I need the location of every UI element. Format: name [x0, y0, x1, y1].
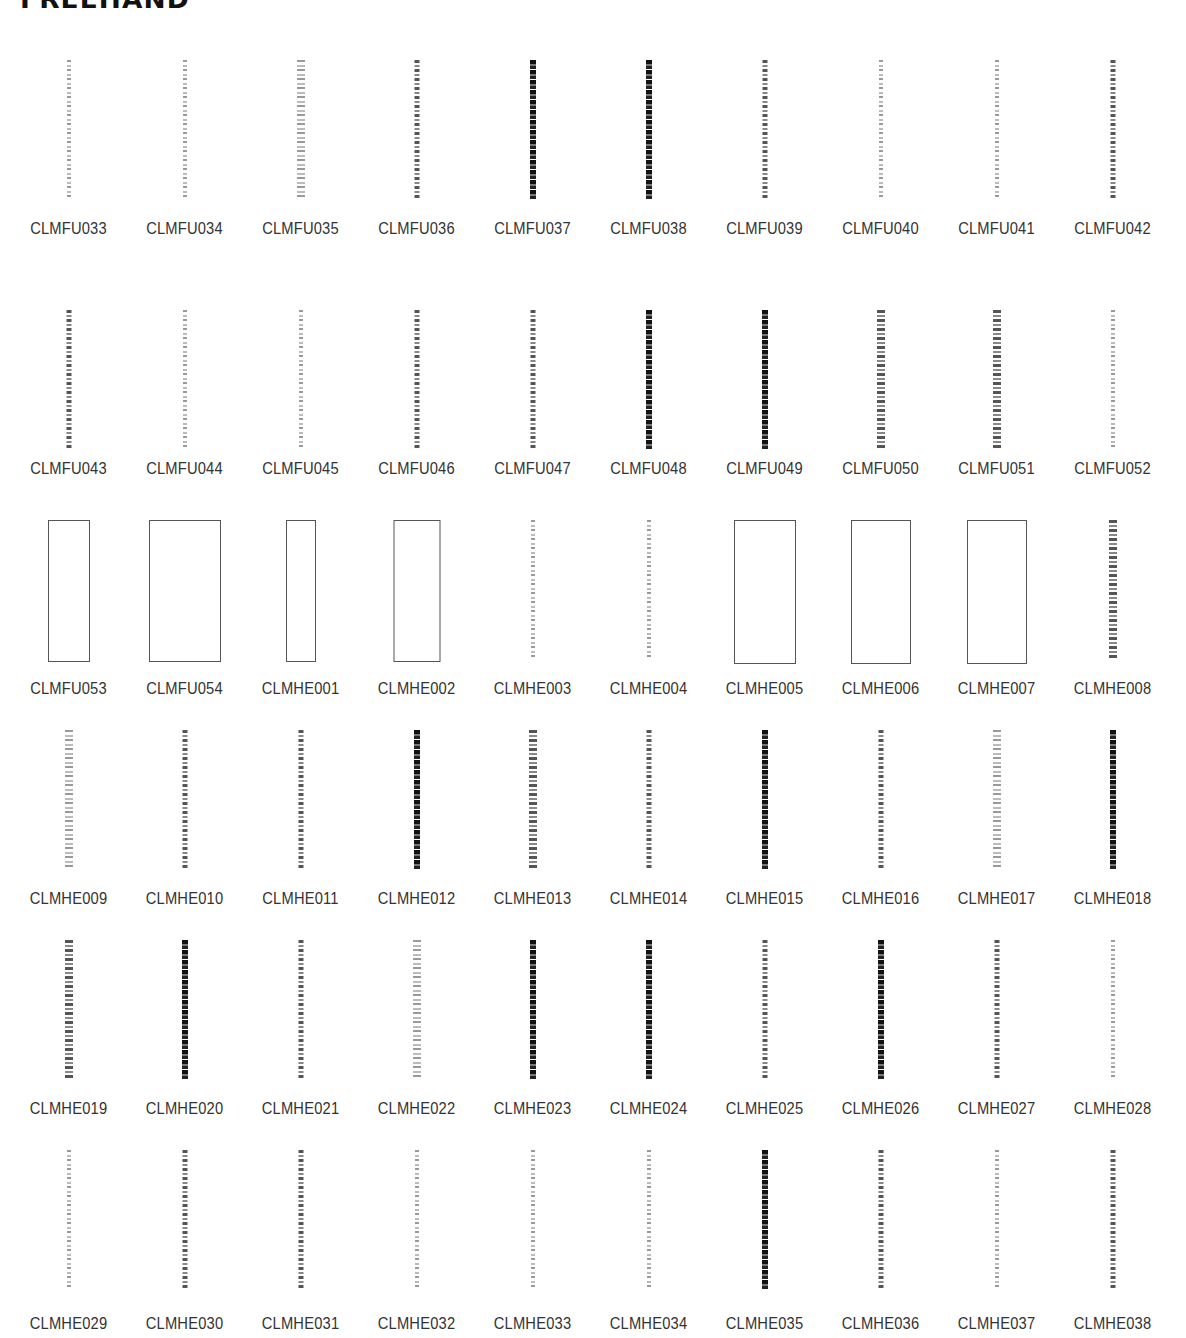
catalog-item[interactable]: CLMFU041: [938, 40, 1055, 250]
border-illustration-icon: [393, 520, 440, 662]
catalog-item[interactable]: CLMHE030: [126, 1130, 243, 1338]
catalog-item[interactable]: CLMHE035: [706, 1130, 823, 1338]
catalog-item[interactable]: CLMHE023: [474, 920, 591, 1130]
catalog-item[interactable]: CLMHE015: [706, 710, 823, 920]
catalog-row: CLMFU043CLMFU044CLMFU045CLMFU046CLMFU047…: [10, 290, 1180, 500]
catalog-item[interactable]: CLMHE013: [474, 710, 591, 920]
border-strip-icon: [1109, 520, 1117, 660]
catalog-item[interactable]: CLMFU047: [474, 290, 591, 500]
item-code-label: CLMHE001: [247, 680, 355, 698]
item-code-label: CLMFU047: [479, 460, 587, 478]
catalog-item[interactable]: CLMFU046: [358, 290, 475, 500]
border-strip-icon: [531, 1150, 535, 1290]
catalog-item[interactable]: CLMHE037: [938, 1130, 1055, 1338]
item-code-label: CLMFU045: [247, 460, 355, 478]
item-code-label: CLMHE030: [131, 1315, 239, 1333]
catalog-item[interactable]: CLMHE014: [590, 710, 707, 920]
border-strip-icon: [1110, 1150, 1115, 1290]
catalog-item[interactable]: CLMFU045: [242, 290, 359, 500]
catalog-item[interactable]: CLMHE003: [474, 500, 591, 710]
catalog-item[interactable]: CLMHE038: [1054, 1130, 1171, 1338]
catalog-item[interactable]: CLMFU043: [10, 290, 127, 500]
catalog-row: CLMHE009CLMHE010CLMHE011CLMHE012CLMHE013…: [10, 710, 1180, 920]
item-code-label: CLMHE033: [479, 1315, 587, 1333]
border-strip-icon: [182, 730, 187, 870]
border-strip-icon: [646, 940, 652, 1080]
border-strip-icon: [1110, 60, 1115, 200]
catalog-item[interactable]: CLMFU035: [242, 40, 359, 250]
catalog-item[interactable]: CLMFU034: [126, 40, 243, 250]
item-code-label: CLMHE007: [943, 680, 1051, 698]
catalog-item[interactable]: CLMFU037: [474, 40, 591, 250]
catalog-item[interactable]: CLMHE025: [706, 920, 823, 1130]
catalog-item[interactable]: CLMHE004: [590, 500, 707, 710]
item-code-label: CLMHE023: [479, 1100, 587, 1118]
catalog-item[interactable]: CLMHE027: [938, 920, 1055, 1130]
catalog-item[interactable]: CLMFU052: [1054, 290, 1171, 500]
item-code-label: CLMHE014: [595, 890, 703, 908]
item-code-label: CLMHE018: [1059, 890, 1167, 908]
catalog-item[interactable]: CLMHE032: [358, 1130, 475, 1338]
catalog-item[interactable]: CLMFU053: [10, 500, 127, 710]
catalog-item[interactable]: CLMHE018: [1054, 710, 1171, 920]
border-illustration-icon: [48, 520, 90, 662]
border-strip-icon: [67, 60, 71, 200]
border-strip-icon: [1111, 940, 1115, 1080]
catalog-item[interactable]: CLMHE034: [590, 1130, 707, 1338]
catalog-item[interactable]: CLMHE017: [938, 710, 1055, 920]
border-illustration-icon: [851, 520, 911, 664]
border-illustration-icon: [149, 520, 221, 662]
catalog-item[interactable]: CLMFU054: [126, 500, 243, 710]
border-strip-icon: [647, 1150, 651, 1290]
catalog-item[interactable]: CLMHE029: [10, 1130, 127, 1338]
catalog-item[interactable]: CLMHE036: [822, 1130, 939, 1338]
catalog-item[interactable]: CLMHE019: [10, 920, 127, 1130]
catalog-item[interactable]: CLMHE007: [938, 500, 1055, 710]
catalog-item[interactable]: CLMHE033: [474, 1130, 591, 1338]
catalog-item[interactable]: CLMHE011: [242, 710, 359, 920]
catalog-item[interactable]: CLMHE012: [358, 710, 475, 920]
catalog-item[interactable]: CLMHE024: [590, 920, 707, 1130]
border-strip-icon: [878, 730, 883, 870]
item-code-label: CLMHE031: [247, 1315, 355, 1333]
border-strip-icon: [646, 310, 652, 450]
border-strip-icon: [297, 60, 305, 200]
catalog-item[interactable]: CLMFU040: [822, 40, 939, 250]
catalog-item[interactable]: CLMHE020: [126, 920, 243, 1130]
border-strip-icon: [995, 1150, 999, 1290]
catalog-item[interactable]: CLMFU048: [590, 290, 707, 500]
item-code-label: CLMHE037: [943, 1315, 1051, 1333]
border-strip-icon: [413, 940, 421, 1080]
catalog-item[interactable]: CLMHE010: [126, 710, 243, 920]
catalog-item[interactable]: CLMHE008: [1054, 500, 1171, 710]
catalog-item[interactable]: CLMHE006: [822, 500, 939, 710]
catalog-item[interactable]: CLMFU049: [706, 290, 823, 500]
catalog-item[interactable]: CLMHE001: [242, 500, 359, 710]
item-code-label: CLMHE015: [711, 890, 819, 908]
item-code-label: CLMHE003: [479, 680, 587, 698]
catalog-item[interactable]: CLMHE022: [358, 920, 475, 1130]
border-strip-icon: [879, 60, 883, 200]
catalog-item[interactable]: CLMFU042: [1054, 40, 1171, 250]
catalog-item[interactable]: CLMFU036: [358, 40, 475, 250]
catalog-item[interactable]: CLMFU044: [126, 290, 243, 500]
catalog-item[interactable]: CLMHE016: [822, 710, 939, 920]
border-strip-icon: [414, 730, 420, 870]
catalog-item[interactable]: CLMHE009: [10, 710, 127, 920]
catalog-item[interactable]: CLMHE031: [242, 1130, 359, 1338]
border-strip-icon: [298, 1150, 303, 1290]
item-code-label: CLMFU033: [15, 220, 123, 238]
catalog-item[interactable]: CLMFU050: [822, 290, 939, 500]
catalog-item[interactable]: CLMHE002: [358, 500, 475, 710]
catalog-item[interactable]: CLMFU033: [10, 40, 127, 250]
catalog-item[interactable]: CLMHE028: [1054, 920, 1171, 1130]
border-strip-icon: [65, 730, 73, 870]
item-code-label: CLMFU044: [131, 460, 239, 478]
catalog-item[interactable]: CLMFU051: [938, 290, 1055, 500]
catalog-item[interactable]: CLMFU038: [590, 40, 707, 250]
item-code-label: CLMHE011: [247, 890, 355, 908]
catalog-item[interactable]: CLMHE005: [706, 500, 823, 710]
catalog-item[interactable]: CLMFU039: [706, 40, 823, 250]
catalog-item[interactable]: CLMHE021: [242, 920, 359, 1130]
catalog-item[interactable]: CLMHE026: [822, 920, 939, 1130]
